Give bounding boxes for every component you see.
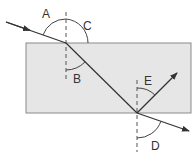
label-d: D — [151, 139, 160, 153]
incident-arrow — [6, 22, 30, 30]
label-b: B — [73, 72, 81, 86]
label-c: C — [83, 19, 92, 33]
label-e: E — [144, 74, 152, 88]
refraction-diagram: A C B E D — [0, 0, 194, 163]
angle-arc-a — [43, 19, 66, 35]
glass-block — [26, 43, 191, 113]
label-a: A — [42, 7, 50, 21]
angle-arc-d — [137, 121, 161, 138]
emergent-ray — [137, 113, 189, 131]
